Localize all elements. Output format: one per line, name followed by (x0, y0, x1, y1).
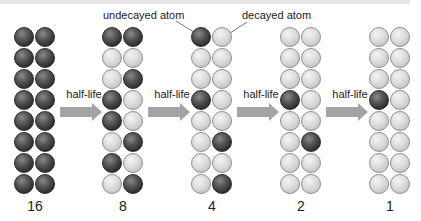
decayed-atom-icon (369, 132, 389, 152)
undecayed-atom-icon (123, 69, 143, 89)
decayed-atom-icon (390, 69, 410, 89)
decayed-atom-icon (369, 69, 389, 89)
atom-count-label: 16 (14, 198, 56, 214)
decayed-atom-icon (212, 111, 232, 131)
atom-count-label: 2 (280, 198, 322, 214)
undecayed-atom-label: undecayed atom (103, 9, 184, 21)
right-arrow-icon (326, 104, 374, 120)
atom-column-4 (280, 27, 322, 195)
decayed-atom-icon (301, 69, 321, 89)
decayed-atom-icon (123, 153, 143, 173)
undecayed-atom-icon (35, 132, 55, 152)
decayed-atom-icon (280, 132, 300, 152)
decayed-atom-icon (280, 153, 300, 173)
decayed-atom-icon (369, 48, 389, 68)
decayed-atom-icon (212, 90, 232, 110)
half-life-label: half-life (148, 88, 196, 100)
decayed-atom-icon (390, 48, 410, 68)
decayed-atom-icon (191, 153, 211, 173)
half-life-step-3: half-life (237, 88, 285, 120)
undecayed-atom-icon (212, 132, 232, 152)
decayed-atom-icon (301, 111, 321, 131)
undecayed-atom-icon (14, 48, 34, 68)
decayed-atom-icon (369, 153, 389, 173)
undecayed-atom-icon (35, 90, 55, 110)
undecayed-atom-icon (123, 132, 143, 152)
decayed-atom-icon (390, 174, 410, 194)
decayed-atom-icon (212, 69, 232, 89)
decayed-atom-icon (191, 174, 211, 194)
half-life-step-2: half-life (148, 88, 196, 120)
undecayed-atom-icon (35, 48, 55, 68)
decayed-atom-label: decayed atom (242, 9, 311, 21)
half-life-label: half-life (237, 88, 285, 100)
undecayed-atom-icon (102, 27, 122, 47)
decayed-atom-icon (390, 132, 410, 152)
decayed-atom-icon (280, 48, 300, 68)
undecayed-atom-icon (301, 132, 321, 152)
decayed-atom-icon (212, 27, 232, 47)
decayed-atom-icon (102, 132, 122, 152)
half-life-step-4: half-life (326, 88, 374, 120)
decayed-atom-icon (212, 48, 232, 68)
decayed-atom-icon (191, 132, 211, 152)
decayed-atom-icon (102, 69, 122, 89)
decayed-atom-icon (390, 27, 410, 47)
atom-count-label: 1 (369, 198, 411, 214)
decayed-atom-icon (301, 48, 321, 68)
undecayed-atom-icon (102, 153, 122, 173)
undecayed-atom-icon (14, 27, 34, 47)
decayed-atom-icon (102, 174, 122, 194)
atom-column-2 (102, 27, 144, 195)
half-life-label: half-life (326, 88, 374, 100)
undecayed-atom-icon (123, 27, 143, 47)
decayed-atom-icon (390, 111, 410, 131)
half-life-step-1: half-life (60, 88, 108, 120)
decayed-atom-icon (123, 111, 143, 131)
decayed-atom-icon (191, 48, 211, 68)
undecayed-atom-icon (35, 174, 55, 194)
decayed-atom-icon (301, 174, 321, 194)
undecayed-atom-icon (191, 27, 211, 47)
undecayed-atom-icon (14, 174, 34, 194)
right-arrow-icon (60, 104, 108, 120)
decayed-atom-icon (123, 90, 143, 110)
decayed-atom-icon (191, 69, 211, 89)
decayed-atom-icon (280, 27, 300, 47)
decayed-atom-icon (301, 153, 321, 173)
decayed-atom-icon (280, 69, 300, 89)
atom-count-label: 4 (191, 198, 233, 214)
decayed-atom-icon (102, 48, 122, 68)
undecayed-atom-icon (35, 111, 55, 131)
decayed-atom-icon (280, 174, 300, 194)
decayed-atom-icon (390, 90, 410, 110)
undecayed-atom-icon (35, 27, 55, 47)
undecayed-atom-icon (123, 174, 143, 194)
undecayed-atom-icon (14, 153, 34, 173)
atom-column-5 (369, 27, 411, 195)
undecayed-atom-icon (35, 153, 55, 173)
decayed-atom-icon (123, 48, 143, 68)
decayed-atom-icon (301, 27, 321, 47)
undecayed-atom-icon (14, 132, 34, 152)
decayed-atom-icon (369, 174, 389, 194)
undecayed-atom-icon (14, 69, 34, 89)
atom-column-1 (14, 27, 56, 195)
undecayed-atom-icon (14, 90, 34, 110)
undecayed-atom-icon (14, 111, 34, 131)
atom-column-3 (191, 27, 233, 195)
atom-count-label: 8 (102, 198, 144, 214)
right-arrow-icon (237, 104, 285, 120)
decayed-atom-icon (212, 153, 232, 173)
undecayed-atom-icon (212, 174, 232, 194)
decayed-atom-icon (301, 90, 321, 110)
half-life-label: half-life (60, 88, 108, 100)
undecayed-atom-icon (35, 69, 55, 89)
decayed-atom-icon (369, 27, 389, 47)
decayed-atom-icon (390, 153, 410, 173)
right-arrow-icon (148, 104, 196, 120)
